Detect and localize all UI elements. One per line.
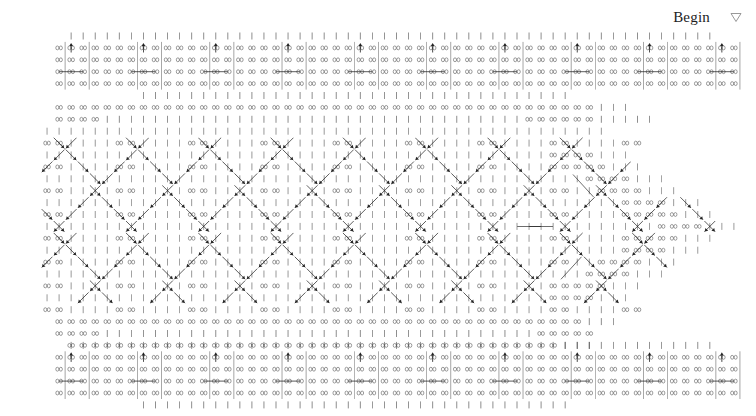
glyph-grid — [0, 0, 756, 416]
app-root: Begin — [0, 0, 756, 416]
